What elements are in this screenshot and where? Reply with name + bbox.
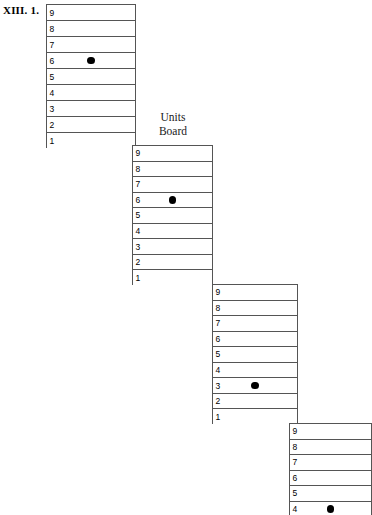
peg-marker-dot-icon: [251, 382, 259, 390]
board-row-number: 1: [136, 274, 141, 283]
board-row-number: 7: [50, 40, 55, 49]
board-row-number: 6: [216, 334, 221, 343]
units-board-annotation-line1: Units: [147, 110, 199, 124]
board-row[interactable]: 7: [47, 37, 135, 53]
board-row[interactable]: 4: [290, 502, 371, 515]
board-row-number: 4: [50, 88, 55, 97]
board-row[interactable]: 9: [290, 424, 371, 440]
board-row[interactable]: 9: [213, 285, 297, 301]
board-row-number: 6: [50, 56, 55, 65]
board-row[interactable]: 6: [290, 471, 371, 487]
board-row-number: 3: [216, 381, 221, 390]
board-row[interactable]: 8: [133, 162, 212, 178]
board-row[interactable]: 9: [133, 146, 212, 162]
board-row-number: 4: [136, 227, 141, 236]
board-4: 987654321: [289, 423, 372, 515]
board-row-number: 7: [216, 319, 221, 328]
board-row-number: 9: [216, 288, 221, 297]
board-row[interactable]: 7: [133, 177, 212, 193]
board-row-number: 9: [50, 8, 55, 17]
board-row[interactable]: 6: [213, 332, 297, 348]
board-row-number: 8: [216, 303, 221, 312]
board-row[interactable]: 5: [213, 347, 297, 363]
board-row[interactable]: 4: [213, 363, 297, 379]
board-row-number: 5: [216, 350, 221, 359]
board-row[interactable]: 2: [213, 394, 297, 410]
board-row-number: 8: [50, 24, 55, 33]
board-3: 987654321: [212, 284, 298, 424]
board-row[interactable]: 7: [213, 316, 297, 332]
figure-canvas: XIII. 1. Units Board 9876543219876543219…: [0, 0, 372, 515]
board-row-number: 7: [293, 458, 298, 467]
board-row-number: 5: [50, 72, 55, 81]
board-row-number: 6: [293, 473, 298, 482]
board-row[interactable]: 3: [133, 239, 212, 255]
board-row[interactable]: 2: [47, 117, 135, 133]
units-board-annotation: Units Board: [147, 110, 199, 138]
board-row-number: 7: [136, 180, 141, 189]
figure-label: XIII. 1.: [3, 4, 39, 16]
peg-marker-dot-icon: [169, 196, 177, 204]
board-row[interactable]: 5: [133, 208, 212, 224]
board-row[interactable]: 1: [213, 409, 297, 425]
board-row-number: 3: [136, 242, 141, 251]
peg-marker-dot-icon: [327, 505, 335, 513]
board-2: 987654321: [132, 145, 213, 285]
board-row[interactable]: 3: [47, 101, 135, 117]
board-row[interactable]: 1: [133, 270, 212, 286]
units-board-annotation-line2: Board: [147, 124, 199, 138]
board-row[interactable]: 5: [290, 486, 371, 502]
board-row[interactable]: 5: [47, 69, 135, 85]
board-row-number: 8: [136, 164, 141, 173]
peg-marker-dot-icon: [87, 57, 95, 65]
board-row-number: 5: [136, 211, 141, 220]
board-row[interactable]: 4: [133, 224, 212, 240]
board-row[interactable]: 8: [213, 301, 297, 317]
board-row[interactable]: 3: [213, 378, 297, 394]
board-row-number: 2: [50, 120, 55, 129]
board-row-number: 3: [50, 104, 55, 113]
board-row[interactable]: 1: [47, 133, 135, 149]
board-row[interactable]: 8: [290, 440, 371, 456]
board-row[interactable]: 6: [47, 53, 135, 69]
board-row[interactable]: 9: [47, 5, 135, 21]
board-row-number: 6: [136, 195, 141, 204]
board-row-number: 1: [216, 413, 221, 422]
board-row-number: 9: [136, 149, 141, 158]
board-row-number: 2: [136, 258, 141, 267]
board-row-number: 9: [293, 427, 298, 436]
board-row[interactable]: 7: [290, 455, 371, 471]
board-row[interactable]: 4: [47, 85, 135, 101]
board-row-number: 2: [216, 397, 221, 406]
board-row-number: 8: [293, 442, 298, 451]
board-row-number: 4: [216, 366, 221, 375]
board-row-number: 1: [50, 137, 55, 146]
board-row-number: 4: [293, 505, 298, 514]
board-row[interactable]: 8: [47, 21, 135, 37]
board-row[interactable]: 2: [133, 255, 212, 271]
board-row-number: 5: [293, 489, 298, 498]
board-row[interactable]: 6: [133, 193, 212, 209]
board-1: 987654321: [46, 4, 136, 148]
